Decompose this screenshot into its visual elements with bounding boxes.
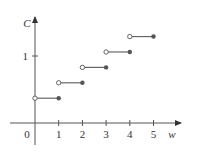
open-endpoint	[128, 34, 132, 38]
axis-ticks	[32, 56, 154, 126]
step-segments	[33, 34, 156, 100]
open-endpoint	[80, 65, 84, 69]
open-endpoint	[33, 96, 37, 100]
y-axis-label: C	[23, 17, 31, 29]
x-tick-label: 5	[151, 128, 157, 140]
x-tick-label: 1	[56, 128, 62, 140]
origin-label: 0	[24, 128, 30, 140]
x-tick-label: 2	[80, 128, 86, 140]
closed-endpoint	[151, 34, 155, 38]
x-tick-label: 4	[127, 128, 133, 140]
open-endpoint	[104, 50, 108, 54]
step-function-chart: 1234510wC	[0, 0, 197, 153]
x-axis-label: w	[168, 128, 176, 140]
y-tick-label: 1	[23, 50, 29, 62]
closed-endpoint	[57, 96, 61, 100]
closed-endpoint	[104, 65, 108, 69]
closed-endpoint	[128, 50, 132, 54]
x-tick-label: 3	[103, 128, 109, 140]
closed-endpoint	[80, 81, 84, 85]
open-endpoint	[57, 81, 61, 85]
